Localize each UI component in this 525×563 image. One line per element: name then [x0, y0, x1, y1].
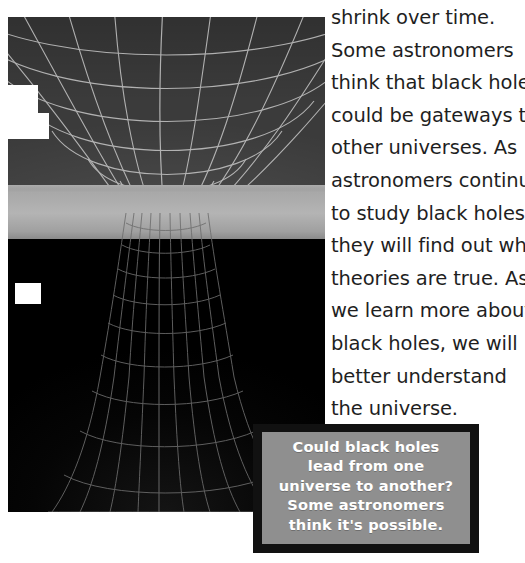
body-line: we learn more about: [331, 295, 523, 328]
page-cutout-notch-lower: [15, 283, 41, 304]
body-line: the universe.: [331, 393, 523, 426]
caption-line: think it's possible.: [279, 515, 453, 535]
caption-line: universe to another?: [279, 476, 453, 496]
event-horizon-plane: [8, 185, 325, 239]
plane-near-edge: [8, 185, 325, 193]
body-line: better understand: [331, 361, 523, 394]
caption-line: Some astronomers: [279, 495, 453, 515]
figure-caption: Could black holes lead from one universe…: [253, 424, 479, 553]
caption-line: lead from one: [279, 456, 453, 476]
body-line: they will find out which: [331, 230, 523, 263]
body-line: could be gateways to: [331, 100, 523, 133]
body-line: to study black holes,: [331, 198, 523, 231]
body-line: theories are true. As: [331, 263, 523, 296]
body-line: Some astronomers: [331, 35, 523, 68]
caption-line: Could black holes: [279, 437, 453, 457]
figure-caption-text: Could black holes lead from one universe…: [279, 437, 453, 535]
body-line: other universes. As: [331, 132, 523, 165]
page-cutout-notch-upper: [8, 85, 38, 113]
funnel-bowl-shading: [8, 17, 325, 203]
body-line: astronomers continue: [331, 165, 523, 198]
body-line: black holes, we will: [331, 328, 523, 361]
page-cutout-notch-middle: [8, 113, 49, 139]
body-line: shrink over time.: [331, 2, 523, 35]
body-line: think that black holes: [331, 67, 523, 100]
black-holes-paragraph: shrink over time. Some astronomers think…: [331, 2, 523, 426]
figure-caption-panel: Could black holes lead from one universe…: [262, 432, 470, 544]
page-root: shrink over time. Some astronomers think…: [0, 0, 525, 563]
